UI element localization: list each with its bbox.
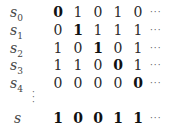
diagonal-cell: 1 bbox=[91, 40, 105, 56]
table-cell: 0 bbox=[51, 75, 65, 91]
vertical-ellipsis: ··· bbox=[32, 90, 35, 105]
table-cell: 0 bbox=[91, 75, 105, 91]
diagonal-cell: 1 bbox=[71, 22, 85, 38]
table-cell: 1 bbox=[131, 22, 145, 38]
row-label: s4 bbox=[10, 75, 23, 97]
table-cell: 0 bbox=[91, 57, 105, 73]
row-label-subscript: 4 bbox=[17, 84, 23, 94]
table-cell: 1 bbox=[51, 57, 65, 73]
table-cell: 0 bbox=[71, 75, 85, 91]
ellipsis: ··· bbox=[150, 113, 162, 123]
table-cell: 1 bbox=[71, 4, 85, 20]
table-cell: 0 bbox=[71, 40, 85, 56]
table-cell: 1 bbox=[51, 40, 65, 56]
result-cell: 1 bbox=[131, 110, 145, 126]
result-cell: 0 bbox=[91, 110, 105, 126]
diagonal-cell: 0 bbox=[131, 75, 145, 91]
table-cell: 0 bbox=[91, 4, 105, 20]
ellipsis: ··· bbox=[150, 25, 162, 35]
diagonal-cell: 0 bbox=[51, 4, 65, 20]
table-cell: 0 bbox=[51, 22, 65, 38]
table-cell: 1 bbox=[71, 57, 85, 73]
result-label: s bbox=[14, 110, 21, 126]
ellipsis: ··· bbox=[150, 78, 162, 88]
table-cell: 1 bbox=[131, 40, 145, 56]
ellipsis: ··· bbox=[150, 60, 162, 70]
result-cell: 1 bbox=[111, 110, 125, 126]
result-cell: 0 bbox=[71, 110, 85, 126]
table-cell: 0 bbox=[131, 4, 145, 20]
table-cell: 0 bbox=[111, 40, 125, 56]
ellipsis: ··· bbox=[150, 7, 162, 17]
table-cell: 0 bbox=[111, 75, 125, 91]
table-cell: 1 bbox=[111, 22, 125, 38]
result-cell: 1 bbox=[51, 110, 65, 126]
table-cell: 1 bbox=[131, 57, 145, 73]
diagonal-cell: 0 bbox=[111, 57, 125, 73]
table-cell: 1 bbox=[111, 4, 125, 20]
table-cell: 1 bbox=[91, 22, 105, 38]
ellipsis: ··· bbox=[150, 43, 162, 53]
